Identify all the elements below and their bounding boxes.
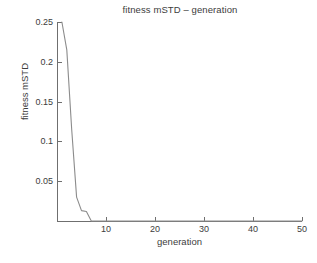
y-tick-label: 0.05	[35, 176, 53, 186]
chart-screenshot: fitness mSTD – generation fitness mSTD g…	[0, 0, 317, 263]
y-axis-title: fitness mSTD	[19, 32, 30, 152]
figure-canvas: fitness mSTD – generation fitness mSTD g…	[0, 0, 317, 263]
x-axis-title: generation	[57, 236, 302, 247]
data-series-layer	[57, 22, 302, 222]
x-tick-label: 40	[248, 224, 258, 234]
y-tick-label: 0.15	[35, 97, 53, 107]
series-line-fitness-mstd	[62, 22, 302, 221]
x-tick-mark	[302, 217, 303, 221]
x-tick-label: 50	[297, 224, 307, 234]
y-tick-label: 0.2	[40, 57, 53, 67]
y-tick-label: 0.1	[40, 136, 53, 146]
chart-title: fitness mSTD – generation	[57, 4, 303, 15]
x-tick-label: 10	[101, 224, 111, 234]
x-tick-label: 30	[199, 224, 209, 234]
x-tick-label: 20	[150, 224, 160, 234]
plot-area: 0.050.10.150.20.25 1020304050	[57, 22, 302, 222]
y-tick-label: 0.25	[35, 17, 53, 27]
